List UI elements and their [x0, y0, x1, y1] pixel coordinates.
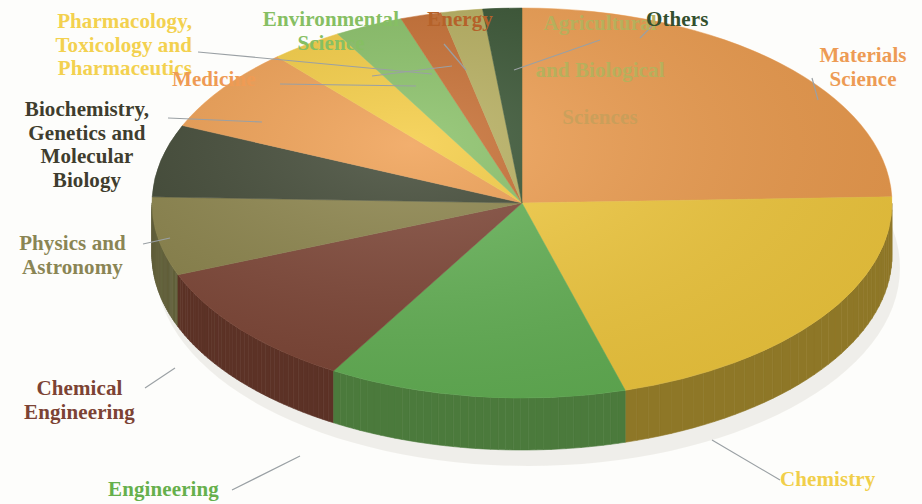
- pie-chart-figure: Materials ScienceChemistryEngineeringChe…: [0, 0, 922, 504]
- pie-side-chemical-engineering: [313, 364, 318, 418]
- pie-side-chemical-engineering: [298, 358, 303, 412]
- pie-side-chemistry: [841, 296, 847, 354]
- pie-side-chemistry: [847, 290, 853, 348]
- pie-side-engineering: [388, 385, 395, 438]
- pie-side-engineering: [431, 392, 438, 445]
- pie-side-chemical-engineering: [275, 348, 280, 402]
- pie-side-engineering: [374, 382, 381, 436]
- pie-side-chemistry: [882, 242, 885, 300]
- pie-side-chemical-engineering: [180, 278, 182, 333]
- pie-side-chemistry: [798, 328, 806, 385]
- pie-side-chemical-engineering: [215, 312, 218, 367]
- pie-side-chemistry: [814, 318, 821, 375]
- pie-side-chemical-engineering: [211, 309, 214, 364]
- pie-side-chemical-engineering: [229, 322, 233, 377]
- pie-side-chemical-engineering: [237, 327, 241, 381]
- pie-side-chemical-engineering: [293, 356, 298, 410]
- pie-side-chemical-engineering: [196, 295, 199, 350]
- pie-side-engineering: [566, 396, 573, 449]
- pie-side-engineering: [417, 390, 424, 443]
- pie-side-chemistry: [735, 359, 745, 415]
- pie-side-chemical-engineering: [188, 287, 191, 342]
- pie-side-engineering: [409, 389, 416, 442]
- pie-side-engineering: [438, 393, 445, 446]
- pie-side-chemistry: [821, 312, 828, 369]
- pie-side-engineering: [618, 390, 625, 443]
- pie-side-chemistry: [828, 307, 835, 364]
- pie-side-chemistry: [660, 381, 671, 435]
- pie-side-chemistry: [863, 273, 868, 331]
- pie-side-chemistry: [725, 363, 735, 419]
- pie-side-chemistry: [876, 254, 879, 312]
- pie-side-engineering: [543, 397, 551, 449]
- pie-side-chemical-engineering: [266, 344, 270, 398]
- pie-side-chemical-engineering: [199, 298, 202, 353]
- pie-side-engineering: [453, 395, 460, 448]
- pie-side-chemical-engineering: [208, 306, 211, 361]
- pie-side-engineering: [611, 391, 618, 444]
- pie-side-engineering: [536, 398, 544, 450]
- pie-side-chemistry: [682, 376, 693, 431]
- pie-side-chemistry: [704, 370, 715, 425]
- pie-side-chemistry: [835, 301, 841, 358]
- leader-line-engineering: [232, 456, 300, 490]
- pie-side-chemistry: [693, 373, 704, 428]
- pie-side-chemical-engineering: [289, 354, 294, 408]
- pie-side-engineering: [354, 377, 361, 431]
- pie-side-chemistry: [853, 284, 858, 342]
- pie-side-engineering: [588, 394, 595, 447]
- pie-side-chemical-engineering: [284, 352, 289, 406]
- pie-side-engineering: [476, 396, 484, 448]
- pie-side-chemistry: [868, 266, 872, 324]
- pie-side-engineering: [446, 394, 453, 447]
- pie-side-engineering: [506, 398, 514, 450]
- pie-side-engineering: [360, 378, 367, 432]
- pie-side-chemical-engineering: [225, 320, 229, 375]
- pie-side-engineering: [367, 380, 374, 434]
- pie-side-chemistry: [790, 333, 798, 390]
- pie-side-chemical-engineering: [183, 281, 185, 336]
- pie-chart-svg: Materials ScienceChemistryEngineeringChe…: [0, 0, 922, 504]
- pie-side-chemistry: [885, 235, 887, 293]
- pie-side-chemistry: [872, 260, 876, 318]
- pie-side-engineering: [424, 391, 431, 444]
- pie-side-engineering: [491, 397, 499, 449]
- pie-side-engineering: [574, 396, 581, 449]
- pie-side-engineering: [468, 396, 475, 449]
- pie-slice-materials-science[interactable]: Materials Science: [522, 8, 892, 203]
- pie-side-engineering: [551, 397, 559, 449]
- pie-side-chemical-engineering: [205, 304, 208, 359]
- pie-side-chemical-engineering: [185, 284, 188, 339]
- pie-side-chemical-engineering: [323, 367, 328, 421]
- pie-side-engineering: [395, 386, 402, 439]
- pie-side-engineering: [521, 398, 529, 450]
- leader-line-chemical-engineering: [145, 368, 175, 388]
- pie-side-chemistry: [648, 384, 659, 438]
- pie-side-chemistry: [773, 342, 782, 398]
- pie-side-chemistry: [806, 323, 814, 380]
- pie-side-chemical-engineering: [178, 275, 180, 330]
- pie-side-chemical-engineering: [318, 366, 323, 420]
- pie-side-engineering: [340, 373, 347, 427]
- pie-side-chemical-engineering: [245, 332, 249, 386]
- pie-side-chemical-engineering: [249, 334, 253, 388]
- pie-side-chemical-engineering: [218, 314, 222, 369]
- pie-side-chemical-engineering: [279, 350, 284, 404]
- pie-side-engineering: [334, 371, 341, 425]
- pie-side-chemistry: [879, 248, 882, 306]
- pie-side-chemical-engineering: [261, 341, 265, 395]
- pie-side-chemistry: [858, 278, 863, 336]
- pie-side-chemistry: [745, 355, 755, 411]
- pie-side-chemical-engineering: [303, 360, 308, 414]
- pie-side-chemical-engineering: [308, 362, 313, 416]
- pie-side-chemistry: [764, 346, 773, 402]
- pie-side-chemistry: [714, 366, 724, 421]
- pie-side-engineering: [513, 398, 521, 450]
- pie-side-chemical-engineering: [328, 369, 333, 423]
- pie-top-face: Materials ScienceChemistryEngineeringChe…: [152, 8, 892, 398]
- pie-side-chemical-engineering: [253, 337, 257, 391]
- pie-side-chemistry: [671, 379, 682, 434]
- pie-side-chemistry: [754, 351, 763, 407]
- pie-side-engineering: [498, 398, 506, 450]
- pie-side-chemical-engineering: [257, 339, 261, 393]
